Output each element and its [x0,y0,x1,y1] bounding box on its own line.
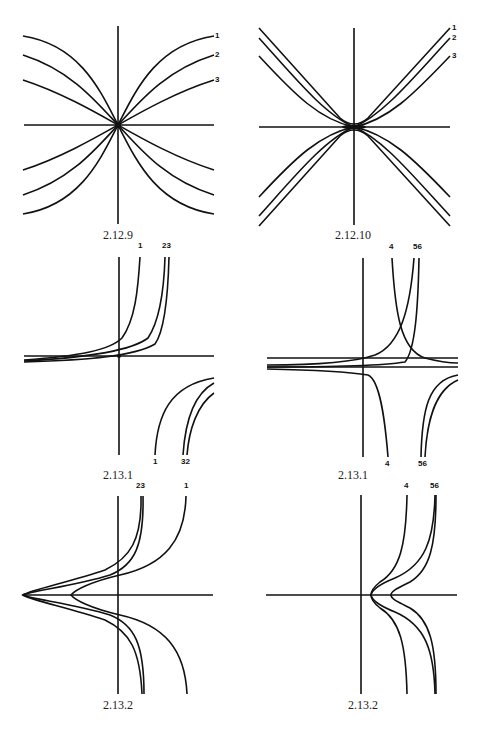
figure-caption: 2.13.2 [323,698,403,713]
curve-label-23: 23 [136,481,145,490]
figure-caption: 2.13.1 [313,468,393,483]
curve-label-32-bottom: 32 [181,457,190,466]
plot-2-13-1-right-graphic [240,250,487,490]
plot-2-13-1-right: 4 56 4 56 2.13.1 [240,250,487,490]
curve-label-2: 2 [215,50,219,59]
curve-label-4-top: 4 [389,242,393,251]
curve-label-1: 1 [215,31,219,40]
curve-label-56-bottom: 56 [418,459,427,468]
figure-caption: 2.12.10 [313,228,393,243]
curve-label-4-bottom: 4 [385,459,389,468]
curve-label-1-bottom: 1 [153,457,157,466]
plot-2-12-9: 1 2 3 2.12.9 [0,0,240,245]
plot-2-13-1-left: 1 23 1 32 2.13.1 [0,250,240,490]
curve-label-3: 3 [452,51,456,60]
curve-label-2: 2 [452,33,456,42]
curve-label-1: 1 [452,23,456,32]
plot-2-12-10-graphic [240,0,487,245]
figure-caption: 2.12.9 [78,228,158,243]
curve-label-23-top: 23 [162,241,171,250]
curve-label-56-top: 56 [413,242,422,251]
figure-caption: 2.13.2 [78,698,158,713]
curve-label-4: 4 [404,481,408,490]
curve-label-1: 1 [184,481,188,490]
curve-label-56: 56 [430,481,439,490]
plot-2-13-2-left: 23 1 2.13.2 [0,490,240,745]
plot-2-13-1-left-graphic [0,250,240,490]
curve-label-3: 3 [215,75,219,84]
plot-2-12-10: 1 2 3 2.12.10 [240,0,487,245]
figure-caption: 2.13.1 [78,468,158,483]
plot-2-13-2-right: 4 56 2.13.2 [240,490,487,745]
curve-label-1-top: 1 [138,241,142,250]
plot-2-12-9-graphic [0,0,240,245]
